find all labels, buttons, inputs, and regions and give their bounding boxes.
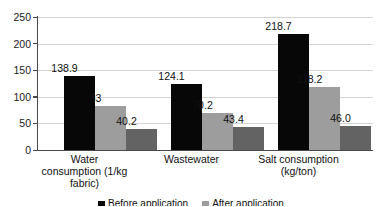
- gridline: [38, 17, 373, 18]
- legend-label: After application: [212, 199, 284, 206]
- bar: [171, 84, 202, 150]
- legend-item-after-application[interactable]: After application: [202, 199, 284, 206]
- bar-value-label: 83: [80, 93, 111, 104]
- category-label: Salt consumption (kg/ton): [240, 153, 357, 177]
- bar-value-label: 118.2: [294, 74, 325, 85]
- y-tick-label: 100: [0, 92, 31, 103]
- legend-swatch-icon: [98, 201, 105, 207]
- gridline: [38, 44, 373, 45]
- x-axis-line: [37, 150, 373, 151]
- legend-item-before-application[interactable]: Before application: [98, 199, 188, 206]
- category-label-line: fabric): [26, 177, 143, 189]
- bar: [340, 126, 371, 151]
- bar-value-label: 124.1: [156, 71, 187, 82]
- category-label-line: Salt consumption: [240, 153, 357, 165]
- bar-value-label: 46.0: [325, 113, 356, 124]
- y-tick-label: 250: [0, 12, 31, 23]
- category-label: Wastewater: [133, 153, 250, 165]
- bar-value-label: 138.9: [49, 63, 80, 74]
- bar: [64, 76, 95, 150]
- category-label-line: (kg/ton): [240, 165, 357, 177]
- legend-label: Before application: [108, 199, 188, 206]
- y-tick-label: 150: [0, 65, 31, 76]
- bar: [95, 106, 126, 150]
- bar-value-label: 40.2: [111, 116, 142, 127]
- chart-legend: Before application After application: [0, 199, 382, 206]
- bar: [233, 127, 264, 150]
- gridline: [38, 70, 373, 71]
- category-label: Water consumption (1/kg fabric): [26, 153, 143, 190]
- bar: [126, 129, 157, 150]
- bar-value-label: 70.2: [187, 100, 218, 111]
- category-label-line: Wastewater: [133, 153, 250, 165]
- bar: [278, 34, 309, 150]
- bar-value-label: 218.7: [263, 21, 294, 32]
- y-axis-line: [37, 16, 38, 151]
- y-tick-label: 50: [0, 118, 31, 129]
- legend-swatch-icon: [202, 201, 209, 207]
- bar-chart: 250 200 150 100 50 0 138.9 83 40.2 124.1…: [0, 0, 382, 206]
- bar-value-label: 43.4: [218, 114, 249, 125]
- category-label-line: Water: [26, 153, 143, 165]
- category-label-line: consumption (1/kg: [26, 165, 143, 177]
- y-tick-label: 200: [0, 39, 31, 50]
